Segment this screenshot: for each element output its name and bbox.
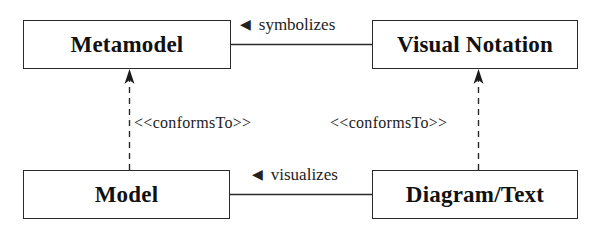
visualizes-label: visualizes: [271, 165, 338, 184]
conforms-to-left-label: <<conformsTo>>: [134, 115, 251, 131]
symbolizes-relation: ◀symbolizes: [240, 16, 335, 33]
visualizes-relation: ◀visualizes: [252, 166, 338, 183]
metamodel-diagram: Metamodel Visual Notation Model Diagram/…: [0, 0, 600, 231]
triangle-left-icon: ◀: [252, 167, 263, 182]
diagram-text-box: Diagram/Text: [372, 170, 578, 219]
conforms-to-right-label: <<conformsTo>>: [330, 115, 447, 131]
model-box: Model: [23, 170, 230, 219]
metamodel-label: Metamodel: [71, 32, 184, 58]
diagram-text-label: Diagram/Text: [406, 182, 544, 208]
metamodel-box: Metamodel: [23, 20, 231, 69]
model-label: Model: [95, 182, 159, 208]
visual-notation-box: Visual Notation: [372, 20, 578, 69]
visual-notation-label: Visual Notation: [397, 32, 553, 58]
triangle-left-icon: ◀: [240, 17, 251, 32]
symbolizes-label: symbolizes: [259, 15, 336, 34]
